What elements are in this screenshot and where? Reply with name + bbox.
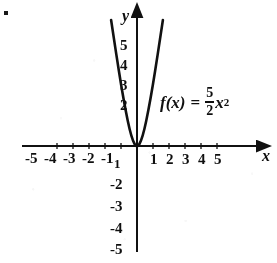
formula-variable: x — [171, 94, 180, 111]
formula-exponent: 2 — [224, 97, 230, 108]
x-tick-label-2: 2 — [166, 152, 174, 167]
y-tick-label--4: -4 — [110, 221, 123, 236]
y-tick-label-1: 1 — [114, 157, 121, 170]
x-tick-label--5: -5 — [25, 151, 38, 166]
graph-figure: y x -5 -4 -3 -2 -1 1 2 3 4 5 5 4 3 2 1 -… — [0, 0, 277, 263]
y-tick-label-2: 2 — [120, 98, 128, 113]
x-tick-label-3: 3 — [182, 152, 190, 167]
x-tick-label-1: 1 — [150, 152, 158, 167]
y-tick-label-5: 5 — [120, 38, 128, 53]
formula-base-variable: x — [215, 94, 224, 111]
x-tick-label-4: 4 — [198, 152, 206, 167]
coordinate-plane — [0, 0, 277, 263]
x-tick-label-5: 5 — [214, 152, 222, 167]
x-axis-label: x — [262, 148, 270, 164]
y-tick-label--5: -5 — [110, 242, 123, 257]
y-tick-label-3: 3 — [120, 78, 128, 93]
x-tick-label--3: -3 — [63, 151, 76, 166]
y-tick-label-4: 4 — [120, 58, 128, 73]
y-tick-label--2: -2 — [110, 177, 123, 192]
y-tick-label--3: -3 — [110, 199, 123, 214]
x-tick-label--1: -1 — [101, 151, 114, 166]
x-tick-label--2: -2 — [82, 151, 95, 166]
x-tick-label--4: -4 — [44, 151, 57, 166]
formula-close-paren: ) — [180, 94, 186, 111]
function-equation-label: f(x) = 5 2 x2 — [160, 86, 229, 118]
y-axis-label: y — [122, 8, 129, 24]
formula-fraction: 5 2 — [205, 86, 214, 118]
formula-denominator: 2 — [205, 104, 214, 118]
formula-numerator: 5 — [205, 86, 214, 100]
formula-equals-sign: = — [191, 94, 201, 111]
